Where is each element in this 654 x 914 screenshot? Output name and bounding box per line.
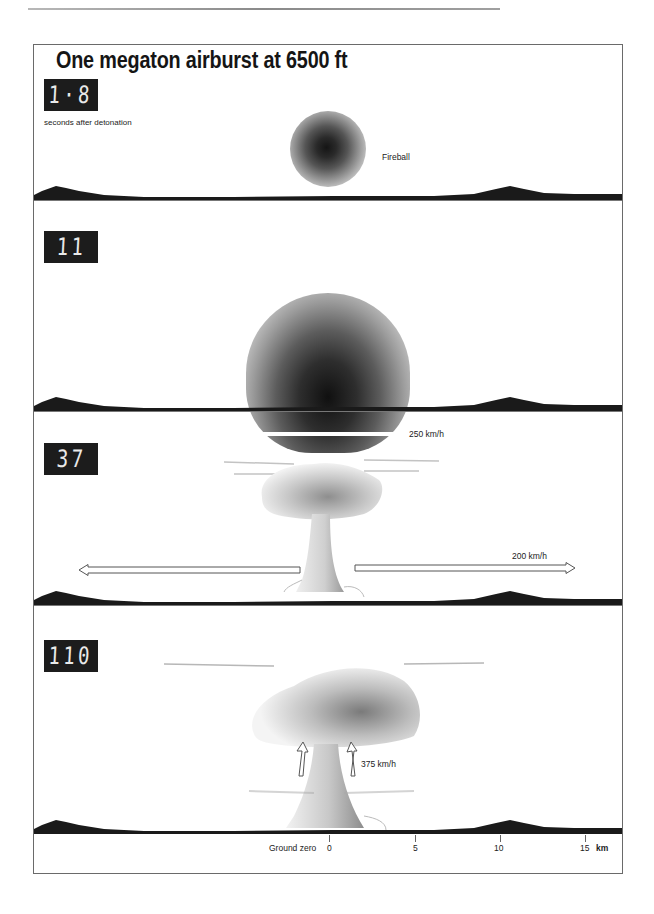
axis-unit-label: km xyxy=(596,843,608,853)
axis-label-0: 0 xyxy=(327,843,332,853)
time-caption: seconds after detonation xyxy=(44,118,132,127)
outward-wind-arrow-right xyxy=(354,562,576,574)
updraft-arrow-left xyxy=(294,741,310,777)
timer-display: 11 xyxy=(44,231,98,263)
axis-label-5: 5 xyxy=(413,843,418,853)
panel-1: 1·8 seconds after detonation Fireball xyxy=(34,45,622,200)
timer-value: 11 xyxy=(55,233,86,261)
wind-speed-label: 200 km/h xyxy=(512,551,547,561)
ground-zero-label: Ground zero xyxy=(269,843,316,853)
timer-value: 110 xyxy=(48,642,94,670)
panel-3: 37 xyxy=(34,412,622,605)
axis-tick-5 xyxy=(415,835,416,842)
fireball-label: Fireball xyxy=(382,152,410,162)
panel-2: 11 250 km/h xyxy=(34,201,622,411)
figure-frame: One megaton airburst at 6500 ft 1·8 seco… xyxy=(33,44,623,874)
ground-silhouette xyxy=(34,176,622,200)
timer-display: 1·8 xyxy=(44,79,98,111)
ground-silhouette xyxy=(34,581,622,605)
top-rule xyxy=(28,8,500,10)
axis-label-15: 15 xyxy=(580,843,589,853)
timer-display: 110 xyxy=(44,640,98,672)
panel-4: 110 xyxy=(34,606,622,834)
axis-label-10: 10 xyxy=(494,843,503,853)
timer-value: 1·8 xyxy=(48,81,94,109)
wind-speed-label: 375 km/h xyxy=(361,759,396,769)
outward-wind-arrow-left xyxy=(78,564,302,576)
axis-tick-10 xyxy=(500,835,501,842)
timer-value: 37 xyxy=(55,445,86,473)
ground-silhouette xyxy=(34,810,622,834)
axis-tick-15 xyxy=(585,835,586,842)
ground-silhouette xyxy=(34,387,622,411)
mushroom-cloud-illustration xyxy=(154,656,494,836)
mushroom-cloud-illustration xyxy=(214,452,454,602)
axis-tick-0 xyxy=(329,835,330,842)
updraft-arrow-right xyxy=(344,741,360,777)
timer-display: 37 xyxy=(44,443,98,475)
